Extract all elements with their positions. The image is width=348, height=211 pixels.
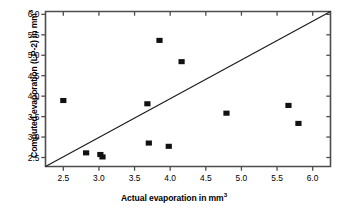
x-tick-label: 2.5 [57,173,69,183]
data-point-marker [60,98,66,103]
x-tick-label: 5.5 [271,173,283,183]
y-tick-label: 5.5 [19,30,40,40]
one-to-one-reference-line [46,12,331,167]
y-tick-label: 3.5 [19,112,40,122]
x-tick-label: 5.0 [236,173,248,183]
data-point-marker [144,101,150,106]
data-markers [60,38,301,160]
data-point-marker [156,38,162,43]
data-point-marker [178,59,184,64]
data-point-marker [295,121,301,126]
y-tick-label: 2.5 [19,153,40,163]
data-point-marker [99,154,105,159]
x-tick-label: 4.5 [200,173,212,183]
data-point-marker [83,150,89,155]
y-tick-label: 4.5 [19,71,40,81]
x-tick-label: 3.5 [129,173,141,183]
scatter-chart-figure: Computed evaporation (LP-2) in mm3 Actua… [0,0,348,211]
data-point-marker [146,140,152,145]
y-tick-label: 5.0 [19,50,40,60]
y-tick-label: 6.0 [19,9,40,19]
x-tick-label: 4.0 [164,173,176,183]
data-point-marker [285,103,291,108]
data-point-marker [166,144,172,149]
x-tick-label: 3.0 [93,173,105,183]
y-tick-label: 3.0 [19,132,40,142]
data-point-marker [223,111,229,116]
x-tick-label: 6.0 [307,173,319,183]
reference-line [46,12,331,167]
y-tick-label: 4.0 [19,91,40,101]
